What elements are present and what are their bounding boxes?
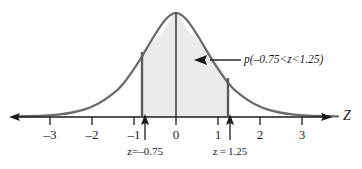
axis-name-label: Z bbox=[343, 109, 351, 123]
axis-tick-label-2: 2 bbox=[257, 128, 264, 141]
axis-tick-label-1: 1 bbox=[215, 128, 222, 141]
axis-ticks bbox=[50, 117, 302, 125]
probability-label: p(–0.75<z<1.25) bbox=[244, 54, 323, 66]
upper-bound-pointer bbox=[226, 114, 234, 140]
normal-distribution-figure: –3 –2 –1 0 1 2 3 z=–0.75 z = 1.25 p(–0.7… bbox=[0, 0, 362, 169]
axis-tick-label-3: 3 bbox=[299, 128, 306, 141]
distribution-plot bbox=[0, 0, 362, 169]
lower-bound-label: z=–0.75 bbox=[127, 146, 163, 157]
lower-bound-pointer bbox=[141, 114, 149, 140]
axis-tick-label--2: –2 bbox=[86, 128, 99, 141]
axis-tick-label--1: –1 bbox=[128, 128, 141, 141]
axis-tick-label-0: 0 bbox=[173, 128, 180, 141]
upper-bound-label: z = 1.25 bbox=[213, 146, 248, 157]
axis-tick-label--3: –3 bbox=[44, 128, 57, 141]
